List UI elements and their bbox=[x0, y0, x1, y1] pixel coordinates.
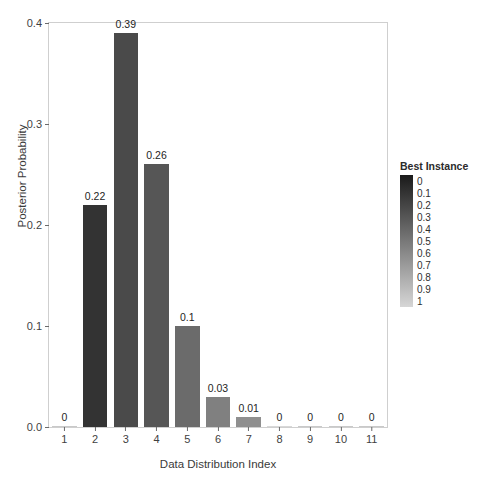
y-axis-tick: 0.4 bbox=[27, 17, 49, 29]
bar-group[interactable]: 0.39 bbox=[114, 23, 139, 427]
legend-label: 0.9 bbox=[417, 285, 431, 295]
x-axis-tick: 2 bbox=[92, 427, 98, 445]
x-axis-tick-label: 11 bbox=[366, 433, 377, 445]
x-axis-tick-label: 4 bbox=[153, 433, 159, 445]
x-axis-tick-mark bbox=[187, 427, 188, 431]
x-axis-tick: 4 bbox=[153, 427, 159, 445]
x-axis-tick-label: 7 bbox=[246, 433, 252, 445]
y-axis-tick-label: 0.2 bbox=[27, 219, 45, 231]
x-axis-tick: 9 bbox=[307, 427, 313, 445]
bars-layer: 00.220.390.260.10.030.010000 bbox=[49, 23, 387, 427]
bar[interactable] bbox=[236, 417, 261, 427]
x-axis-tick-mark bbox=[156, 427, 157, 431]
x-axis-title: Data Distribution Index bbox=[48, 458, 388, 470]
x-axis-tick-label: 9 bbox=[307, 433, 313, 445]
y-axis-tick-mark bbox=[45, 124, 49, 125]
y-axis-title: Posterior Probability bbox=[16, 66, 28, 286]
x-axis-tick: 3 bbox=[123, 427, 129, 445]
bar-group[interactable]: 0 bbox=[267, 23, 292, 427]
legend-label: 0.6 bbox=[417, 249, 431, 259]
bar-value-label: 0.03 bbox=[208, 382, 228, 394]
bar[interactable] bbox=[83, 205, 108, 427]
bar-value-label: 0 bbox=[338, 411, 344, 423]
legend-label: 0.1 bbox=[417, 189, 431, 199]
bar-value-label: 0 bbox=[369, 411, 375, 423]
x-axis-tick-label: 3 bbox=[123, 433, 129, 445]
legend-label: 0.8 bbox=[417, 273, 431, 283]
bar[interactable] bbox=[206, 397, 231, 427]
bar-group[interactable]: 0.26 bbox=[144, 23, 169, 427]
x-axis-tick-mark bbox=[125, 427, 126, 431]
x-axis-tick-mark bbox=[310, 427, 311, 431]
legend: Best Instance 00.10.20.30.40.50.60.70.80… bbox=[400, 160, 482, 307]
bar-value-label: 0 bbox=[277, 411, 283, 423]
bar-group[interactable]: 0 bbox=[52, 23, 77, 427]
x-axis-tick: 11 bbox=[366, 427, 377, 445]
plot-area: 00.220.390.260.10.030.010000 0.00.10.20.… bbox=[48, 22, 388, 428]
bar-group[interactable]: 0.1 bbox=[175, 23, 200, 427]
x-axis-tick: 6 bbox=[215, 427, 221, 445]
x-axis-tick-label: 2 bbox=[92, 433, 98, 445]
legend-label: 0.4 bbox=[417, 225, 431, 235]
y-axis-tick: 0.1 bbox=[27, 320, 49, 332]
y-axis-tick-label: 0.1 bbox=[27, 320, 45, 332]
x-axis-tick: 5 bbox=[184, 427, 190, 445]
x-axis-tick-label: 1 bbox=[61, 433, 67, 445]
x-axis-tick-label: 5 bbox=[184, 433, 190, 445]
x-axis-tick: 1 bbox=[61, 427, 67, 445]
y-axis-tick-mark bbox=[45, 427, 49, 428]
x-axis-tick-mark bbox=[340, 427, 341, 431]
bar[interactable] bbox=[175, 326, 200, 427]
chart-figure: Posterior Probability 00.220.390.260.10.… bbox=[0, 0, 485, 488]
legend-body: 00.10.20.30.40.50.60.70.80.91 bbox=[400, 175, 482, 307]
y-axis-tick-label: 0.3 bbox=[27, 118, 45, 130]
y-axis-tick: 0.0 bbox=[27, 421, 49, 433]
legend-label: 1 bbox=[417, 297, 423, 307]
bar[interactable] bbox=[144, 164, 169, 427]
bar-value-label: 0.39 bbox=[116, 18, 136, 30]
legend-label: 0.3 bbox=[417, 213, 431, 223]
y-axis-tick-mark bbox=[45, 225, 49, 226]
x-axis-tick: 10 bbox=[335, 427, 347, 445]
bar-value-label: 0.26 bbox=[146, 149, 166, 161]
bar-group[interactable]: 0 bbox=[359, 23, 384, 427]
x-axis-tick-label: 8 bbox=[276, 433, 282, 445]
legend-label: 0 bbox=[417, 177, 423, 187]
x-axis-tick-mark bbox=[279, 427, 280, 431]
legend-label: 0.7 bbox=[417, 261, 431, 271]
x-axis-tick-mark bbox=[95, 427, 96, 431]
y-axis-tick-mark bbox=[45, 23, 49, 24]
y-axis-tick: 0.3 bbox=[27, 118, 49, 130]
bar-group[interactable]: 0.03 bbox=[206, 23, 231, 427]
y-axis-tick: 0.2 bbox=[27, 219, 49, 231]
bar-value-label: 0.01 bbox=[238, 402, 258, 414]
x-axis-tick-mark bbox=[248, 427, 249, 431]
x-axis-tick: 8 bbox=[276, 427, 282, 445]
bar-value-label: 0 bbox=[307, 411, 313, 423]
bar[interactable] bbox=[114, 33, 139, 427]
x-axis-tick-mark bbox=[371, 427, 372, 431]
legend-title: Best Instance bbox=[400, 160, 482, 172]
bar-group[interactable]: 0 bbox=[329, 23, 354, 427]
x-axis-tick: 7 bbox=[246, 427, 252, 445]
x-axis-tick-mark bbox=[64, 427, 65, 431]
x-axis-tick-label: 6 bbox=[215, 433, 221, 445]
legend-labels: 00.10.20.30.40.50.60.70.80.91 bbox=[417, 175, 482, 307]
y-axis-tick-label: 0.4 bbox=[27, 17, 45, 29]
bar-group[interactable]: 0.01 bbox=[236, 23, 261, 427]
y-axis-tick-mark bbox=[45, 326, 49, 327]
bar-group[interactable]: 0 bbox=[298, 23, 323, 427]
x-axis-tick-label: 10 bbox=[335, 433, 347, 445]
legend-label: 0.2 bbox=[417, 201, 431, 211]
bar-value-label: 0.22 bbox=[85, 190, 105, 202]
bar-group[interactable]: 0.22 bbox=[83, 23, 108, 427]
legend-colorbar bbox=[400, 175, 413, 307]
legend-label: 0.5 bbox=[417, 237, 431, 247]
y-axis-tick-label: 0.0 bbox=[27, 421, 45, 433]
bar-value-label: 0.1 bbox=[180, 311, 195, 323]
x-axis-tick-mark bbox=[218, 427, 219, 431]
bar-value-label: 0 bbox=[61, 411, 67, 423]
